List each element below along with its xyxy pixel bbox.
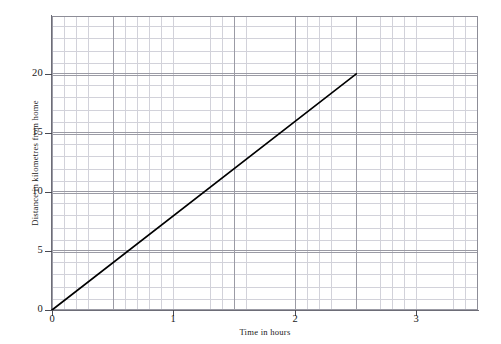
- plot-border-right: [477, 16, 478, 310]
- x-tick-label-0: 0: [40, 313, 64, 324]
- plot-border-top: [52, 16, 478, 17]
- y-axis-line: [51, 15, 52, 311]
- line-chart: 20 15 10 5 0 0 1 2 3 Time in hours Dista…: [0, 0, 501, 344]
- y-tick-20: [45, 74, 52, 75]
- y-axis-title: Distance in kilometres from home: [27, 16, 43, 310]
- plot-area: [52, 16, 478, 310]
- y-tick-15: [45, 133, 52, 134]
- y-tick-0: [45, 310, 52, 311]
- x-tick-label-2: 2: [283, 313, 307, 324]
- x-axis-line: [51, 310, 479, 311]
- y-tick-5: [45, 251, 52, 252]
- x-tick-label-3: 3: [404, 313, 428, 324]
- major-gridlines-horizontal: [52, 16, 478, 310]
- x-tick-label-1: 1: [161, 313, 185, 324]
- y-tick-10: [45, 192, 52, 193]
- x-axis-title: Time in hours: [52, 327, 478, 337]
